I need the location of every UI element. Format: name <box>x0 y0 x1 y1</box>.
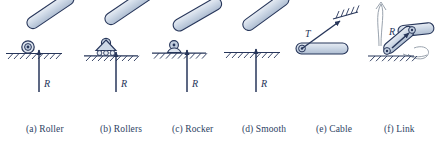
diagram-rollers <box>84 0 154 92</box>
force-label-roller: R <box>44 78 50 89</box>
diagram-roller <box>6 0 76 92</box>
caption-rollers-line-1: (b) Rollers <box>100 124 142 135</box>
caption-cable-line-1: (e) Cable <box>316 124 352 135</box>
rollers-wheels-icon <box>97 51 115 56</box>
support-reactions-figure: R R R R T R (a) Roller (b) Rollers (c) R… <box>0 0 438 144</box>
roller-pin-icon <box>22 41 34 53</box>
force-label-rollers: R <box>121 78 127 89</box>
smooth-surface-ground-hatch-icon <box>224 53 280 59</box>
caption-link: (f) Link <box>384 102 415 144</box>
force-label-smooth-surface: R <box>261 78 267 89</box>
rollers-bracket-icon <box>96 40 116 51</box>
link-pin-bottom-icon <box>384 48 391 55</box>
rocker-ground-hatch-icon <box>152 53 207 58</box>
roller-bar <box>25 0 76 31</box>
force-label-cable-tension: T <box>305 28 311 39</box>
link-pin-top-icon <box>409 27 416 34</box>
diagram-link <box>368 2 434 61</box>
caption-smooth-surface: (d) Smooth (frictionless) surface <box>242 102 301 144</box>
diagram-smooth-surface <box>224 0 291 92</box>
rocker-curved-base-icon <box>168 48 182 53</box>
rollers-bar <box>103 0 154 27</box>
force-label-rocker: R <box>192 78 198 89</box>
caption-cable: (e) Cable <box>316 102 352 144</box>
smooth-surface-bar <box>240 0 291 33</box>
caption-rocker: (c) Rocker <box>172 102 213 144</box>
roller-ground-hatch-icon <box>6 54 62 60</box>
rocker-bar <box>171 0 224 33</box>
caption-rollers: (b) Rollers <box>100 102 142 144</box>
caption-roller: (a) Roller <box>26 102 64 144</box>
caption-smooth-surface-line-1: (d) Smooth <box>242 124 301 135</box>
force-label-link: R <box>389 26 395 37</box>
diagram-rocker <box>152 0 224 92</box>
link-ground-hatch-icon <box>368 56 417 61</box>
figure-canvas <box>0 0 438 144</box>
rollers-ground-hatch-icon <box>84 56 139 61</box>
caption-rocker-line-1: (c) Rocker <box>172 124 213 135</box>
caption-link-line-1: (f) Link <box>384 124 415 135</box>
cable-ceiling-hatch-icon <box>333 5 359 19</box>
caption-roller-line-1: (a) Roller <box>26 124 64 135</box>
